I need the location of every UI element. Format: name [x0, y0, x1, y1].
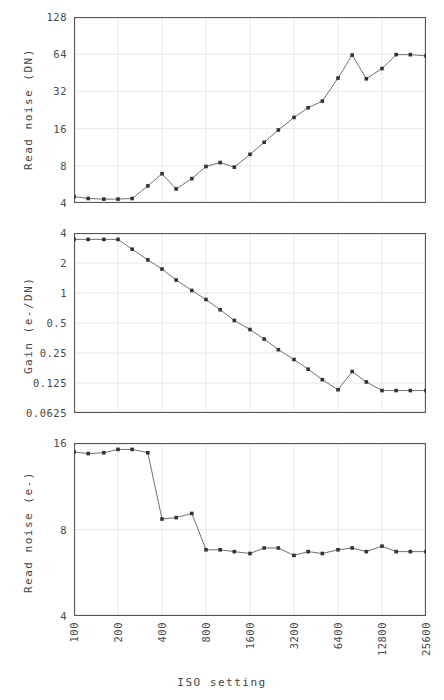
x-tick-label: 1600 [244, 622, 256, 649]
y-tick-label: 4 [0, 610, 67, 622]
chart-panel-gain [74, 233, 426, 413]
figure-canvas: Read noise (DN) 48163264128 Gain (e-/DN)… [0, 0, 444, 700]
y-tick-label: 8 [0, 524, 67, 536]
x-tick-label: 6400 [332, 622, 344, 649]
y-tick-label: 16 [0, 123, 67, 135]
y-tick-label: 16 [0, 437, 67, 449]
x-tick-label: 3200 [288, 622, 300, 649]
x-tick-label: 100 [68, 622, 80, 642]
y-tick-label: 0.0625 [0, 407, 67, 419]
y-tick-label: 4 [0, 197, 67, 209]
y-axis-label-read-noise-dn: Read noise (DN) [22, 50, 35, 170]
plot-area-read-noise-e [74, 443, 426, 616]
y-tick-label: 0.125 [0, 377, 67, 389]
x-tick-label: 25600 [420, 622, 432, 656]
x-tick-label: 800 [200, 622, 212, 642]
y-tick-label: 1 [0, 287, 67, 299]
plot-area-gain [74, 233, 426, 413]
y-tick-label: 8 [0, 160, 67, 172]
y-tick-label: 0.25 [0, 347, 67, 359]
chart-panel-read-noise-dn [74, 17, 426, 203]
chart-panel-read-noise-e [74, 443, 426, 616]
x-axis-label: ISO setting [0, 676, 444, 689]
x-tick-label: 12800 [376, 622, 388, 656]
x-tick-label: 400 [156, 622, 168, 642]
y-tick-label: 128 [0, 11, 67, 23]
x-tick-label: 200 [112, 622, 124, 642]
y-tick-label: 4 [0, 227, 67, 239]
y-tick-label: 32 [0, 85, 67, 97]
plot-area-read-noise-dn [74, 17, 426, 203]
y-tick-label: 64 [0, 48, 67, 60]
y-tick-label: 2 [0, 257, 67, 269]
y-tick-label: 0.5 [0, 317, 67, 329]
